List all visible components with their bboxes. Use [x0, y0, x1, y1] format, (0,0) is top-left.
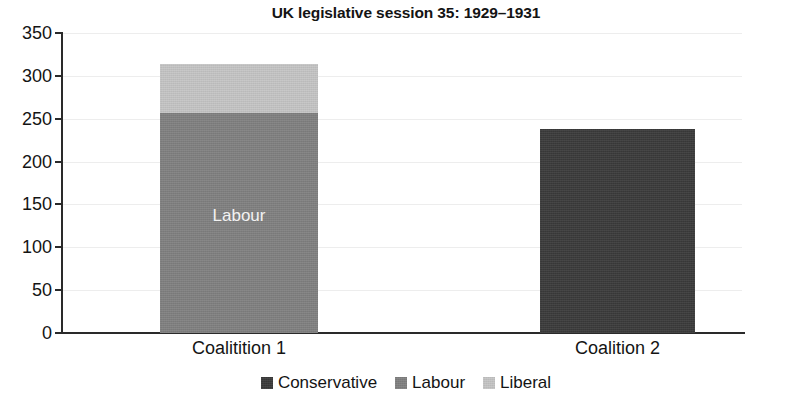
legend-label: Conservative: [278, 373, 377, 393]
legend-label: Labour: [412, 373, 465, 393]
y-axis-tick: [55, 289, 62, 291]
y-axis-tick-label: 0: [0, 323, 52, 344]
bar-chart: UK legislative session 35: 1929–1931 050…: [0, 0, 812, 408]
texture-overlay: [540, 129, 695, 333]
y-axis-tick: [55, 75, 62, 77]
y-axis-tick: [55, 32, 62, 34]
x-axis-label: Coalitition 1: [100, 338, 378, 359]
y-axis-tick-label: 100: [0, 237, 52, 258]
y-axis-tick: [55, 161, 62, 163]
chart-legend: ConservativeLabourLiberal: [0, 373, 812, 393]
legend-item[interactable]: Labour: [395, 373, 465, 393]
texture-overlay: [395, 377, 407, 389]
y-axis-tick-label: 200: [0, 151, 52, 172]
legend-label: Liberal: [500, 373, 551, 393]
legend-swatch-icon: [483, 377, 495, 389]
x-axis-label: Coalition 2: [480, 338, 755, 359]
y-axis-tick-label: 250: [0, 108, 52, 129]
legend-item[interactable]: Conservative: [261, 373, 377, 393]
bar-group[interactable]: Labour: [160, 64, 318, 333]
bar-segment-labour[interactable]: Labour: [160, 113, 318, 333]
y-axis-tick: [55, 332, 62, 334]
texture-overlay: [160, 64, 318, 113]
bar-segment-liberal[interactable]: [160, 64, 318, 113]
bar-group[interactable]: [540, 129, 695, 333]
bar-segment-label: Labour: [160, 206, 318, 226]
y-axis-tick-label: 150: [0, 194, 52, 215]
legend-swatch-icon: [261, 377, 273, 389]
texture-overlay: [261, 377, 273, 389]
chart-title: UK legislative session 35: 1929–1931: [0, 4, 812, 22]
legend-item[interactable]: Liberal: [483, 373, 551, 393]
y-axis-tick: [55, 203, 62, 205]
y-axis-tick-label: 350: [0, 23, 52, 44]
legend-swatch-icon: [395, 377, 407, 389]
y-axis-tick-label: 50: [0, 280, 52, 301]
y-axis-tick-label: 300: [0, 65, 52, 86]
gridline: [63, 33, 742, 34]
y-axis-tick: [55, 246, 62, 248]
bar-segment-conservative[interactable]: [540, 129, 695, 333]
texture-overlay: [483, 377, 495, 389]
y-axis-tick: [55, 118, 62, 120]
